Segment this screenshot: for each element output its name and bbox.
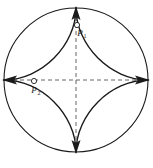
geometry-figure: P 1 P 2 — [0, 0, 153, 168]
figure-svg: P 1 P 2 — [0, 0, 153, 168]
annotation-top-label: P — [76, 28, 83, 38]
point-marker-icon — [74, 22, 79, 27]
point-marker-icon — [31, 78, 36, 83]
annotation-left-label: P — [30, 85, 37, 95]
annotation-left-subscript: 2 — [38, 90, 41, 96]
annotation-top-subscript: 1 — [84, 33, 87, 39]
